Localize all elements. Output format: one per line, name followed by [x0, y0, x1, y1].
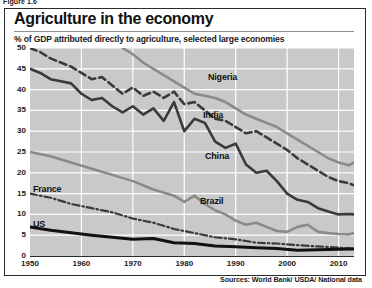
chart-figure: Figure 1.6 Agriculture in the economy % …	[0, 0, 372, 288]
y-tick-50: 50	[4, 43, 26, 52]
x-tick-1990: 1990	[221, 259, 251, 268]
x-tick-2010: 2010	[324, 259, 354, 268]
y-tick-30: 30	[4, 126, 26, 135]
x-tick-1980: 1980	[169, 259, 199, 268]
series-line-china	[30, 69, 354, 215]
series-canvas	[30, 48, 354, 256]
source-note: Sources: World Bank/ USDA/ National data	[220, 275, 362, 284]
plot-area	[30, 48, 354, 256]
y-tick-15: 15	[4, 189, 26, 198]
series-label-france: France	[33, 184, 61, 194]
y-tick-45: 45	[4, 64, 26, 73]
x-tick-2000: 2000	[272, 259, 302, 268]
title-divider	[14, 31, 354, 32]
series-label-nigeria: Nigeria	[208, 72, 237, 82]
series-label-india: India	[203, 110, 223, 120]
series-label-us: US	[33, 219, 45, 229]
chart-title: Agriculture in the economy	[14, 10, 213, 28]
x-axis-line	[30, 256, 354, 257]
y-tick-5: 5	[4, 230, 26, 239]
x-tick-1970: 1970	[118, 259, 148, 268]
y-tick-25: 25	[4, 147, 26, 156]
series-label-china: China	[205, 151, 229, 161]
y-tick-35: 35	[4, 105, 26, 114]
y-tick-20: 20	[4, 168, 26, 177]
x-tick-1960: 1960	[66, 259, 96, 268]
x-tick-1950: 1950	[15, 259, 45, 268]
chart-subtitle: % of GDP attributed directly to agricult…	[14, 34, 284, 44]
y-tick-40: 40	[4, 85, 26, 94]
figure-caption: Figure 1.6	[3, 0, 37, 5]
y-tick-10: 10	[4, 209, 26, 218]
series-label-brazil: Brazil	[200, 196, 223, 206]
